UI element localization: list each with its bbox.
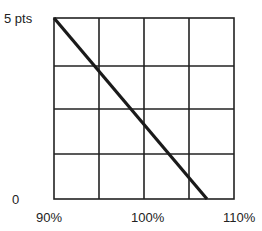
- grid: [54, 18, 234, 199]
- x-tick-110: 110%: [223, 210, 255, 225]
- chart-plot: [0, 0, 262, 231]
- y-tick-bottom: 0: [12, 192, 19, 207]
- y-tick-top: 5 pts: [4, 11, 32, 26]
- x-tick-100: 100%: [131, 210, 164, 225]
- x-tick-90: 90%: [36, 210, 62, 225]
